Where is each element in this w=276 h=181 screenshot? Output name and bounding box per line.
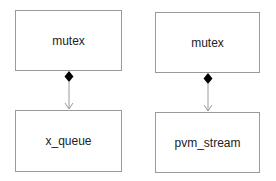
composition-link-1 (65, 71, 74, 109)
class-box-mutex-left[interactable]: mutex (15, 10, 122, 71)
class-label: x_queue (45, 134, 91, 148)
composition-link-2 (204, 73, 213, 111)
class-box-mutex-right[interactable]: mutex (155, 12, 260, 73)
class-label: pvm_stream (174, 136, 240, 150)
composition-diamond-icon (204, 73, 213, 84)
class-label: mutex (191, 36, 224, 50)
class-label: mutex (52, 34, 85, 48)
class-box-pvm-stream[interactable]: pvm_stream (155, 112, 260, 173)
composition-diamond-icon (65, 71, 74, 82)
class-box-x-queue[interactable]: x_queue (15, 110, 122, 172)
